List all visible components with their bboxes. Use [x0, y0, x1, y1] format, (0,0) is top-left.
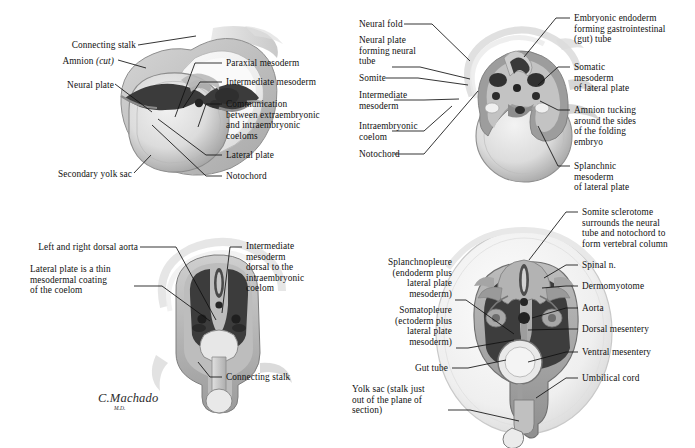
label-splanchnic-mesoderm: Splanchnic mesoderm of lateral plate [574, 161, 629, 193]
label-amnion-cut-italic: (cut) [96, 56, 114, 66]
label-amnion-text: Amnion [62, 56, 96, 66]
label-intermediate-mesoderm-dorsal: Intermediate mesoderm dorsal to the intr… [246, 241, 304, 294]
label-embryonic-endoderm: Embryonic endoderm forming gastrointesti… [574, 13, 665, 45]
label-splanchnopleure: Splanchnopleure (endoderm plus lateral p… [352, 257, 452, 299]
label-gut-tube: Gut tube [352, 363, 448, 374]
figure-canvas: C.Machado M.D. [0, 0, 695, 448]
label-yolk-sac-p4: Yolk sac (stalk just out of the plane of… [352, 384, 425, 416]
label-somite-p2: Somite [359, 73, 386, 84]
label-amnion-tucking: Amnion tucking around the sides of the f… [574, 105, 636, 147]
label-somatopleure: Somatopleure (ectoderm plus lateral plat… [352, 305, 452, 347]
label-somite-sclerotome: Somite sclerotome surrounds the neural t… [582, 207, 668, 249]
label-connecting-stalk-p3: Connecting stalk [226, 372, 290, 383]
artist-signature: C.Machado M.D. [98, 388, 158, 411]
signature-credential: M.D. [114, 405, 158, 411]
label-dermomyotome: Dermomyotome [582, 281, 644, 292]
label-lateral-plate-thin: Lateral plate is a thin mesodermal coati… [30, 264, 111, 296]
label-coelom-communication: Communication between extraembryonic and… [226, 99, 320, 141]
label-neural-fold: Neural fold [359, 19, 403, 30]
label-lateral-plate-p1: Lateral plate [226, 150, 274, 161]
label-notochord-p2: Notochord [359, 149, 400, 160]
signature-name: C.Machado [98, 391, 158, 405]
label-aorta: Aorta [582, 303, 604, 314]
label-spinal-n: Spinal n. [582, 260, 616, 271]
label-neural-plate-p1: Neural plate [44, 80, 114, 91]
label-notochord-p1: Notochord [226, 171, 267, 182]
label-paraxial-mesoderm: Paraxial mesoderm [226, 58, 299, 69]
label-connecting-stalk-p1: Connecting stalk [52, 40, 136, 51]
label-ventral-mesentery: Ventral mesentery [582, 347, 651, 358]
label-dorsal-mesentery: Dorsal mesentery [582, 324, 649, 335]
label-umbilical-cord: Umbilical cord [582, 373, 639, 384]
label-neural-plate-tube: Neural plate forming neural tube [359, 35, 416, 67]
label-intermediate-mesoderm-p2: Intermediate mesoderm [359, 90, 407, 111]
label-intermediate-mesoderm-p1: Intermediate mesoderm [226, 77, 316, 88]
label-amnion-cut: Amnion (cut) [40, 56, 114, 67]
label-intraembryonic-coelom-p2: Intraembryonic coelom [359, 121, 418, 142]
label-dorsal-aorta: Left and right dorsal aorta [16, 242, 138, 253]
label-secondary-yolk-sac: Secondary yolk sac [14, 169, 132, 180]
label-somatic-mesoderm: Somatic mesoderm of lateral plate [574, 62, 629, 94]
